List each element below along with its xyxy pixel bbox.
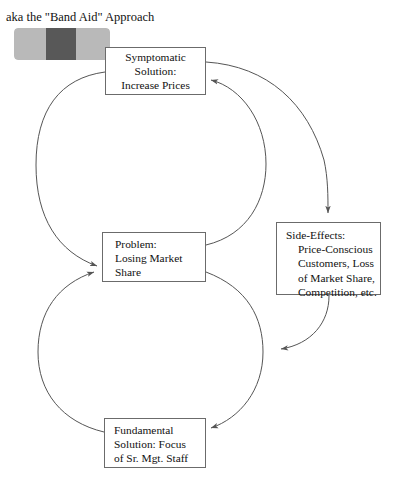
node-fundamental-label: Fundamental Solution: Focus of Sr. Mgt. … xyxy=(114,423,205,466)
node-symptomatic-label: Symptomatic Solution: Increase Prices xyxy=(106,50,205,93)
node-symptomatic-solution[interactable]: Symptomatic Solution: Increase Prices xyxy=(105,47,206,95)
edge-problem-to-symptomatic xyxy=(206,80,266,245)
node-side-effects-items: Price-Conscious Customers, Loss of Marke… xyxy=(286,242,380,299)
edge-problem-to-fundamental xyxy=(206,272,263,428)
node-side-effects-heading: Side-Effects: xyxy=(286,228,380,242)
edge-fundamental-to-problem xyxy=(38,272,104,432)
edge-side-effects-to-lower-loop xyxy=(281,296,329,349)
node-problem-label: Problem: Losing Market Share xyxy=(115,237,205,280)
node-problem[interactable]: Problem: Losing Market Share xyxy=(102,232,206,282)
node-side-effects[interactable]: Side-Effects: Price-Conscious Customers,… xyxy=(276,222,381,295)
diagram-canvas: aka the "Band Aid" Approach Symptomatic … xyxy=(0,0,399,485)
edge-symptomatic-to-problem xyxy=(36,72,105,266)
node-fundamental-solution[interactable]: Fundamental Solution: Focus of Sr. Mgt. … xyxy=(104,418,206,468)
